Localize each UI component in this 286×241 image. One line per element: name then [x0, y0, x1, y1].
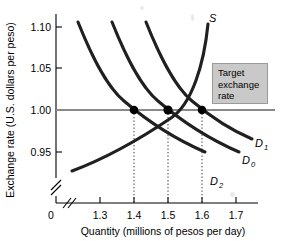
- y-tick-label-1-00: 1.00: [31, 104, 52, 116]
- y-tick-label-0-95: 0.95: [31, 146, 52, 158]
- scan-speck-2: [191, 14, 194, 21]
- target-exchange-rate-callout: Target exchange rate: [212, 63, 268, 104]
- curve-label-d2-sub: 2: [218, 181, 224, 190]
- y-axis-title: Exchange rate (U.S. dollars per peso): [4, 22, 16, 198]
- y-tick-label-1-10: 1.10: [31, 21, 52, 33]
- curve-label-d0: D 0: [242, 154, 256, 169]
- curve-label-d1-sub: 1: [264, 143, 268, 152]
- curve-label-d2: D 2: [210, 175, 224, 190]
- curve-label-s: S: [209, 12, 217, 24]
- x-tick-label-1-4: 1.4: [127, 209, 142, 221]
- equilibrium-dot-1-4: [130, 106, 139, 115]
- curve-label-d0-sub: 0: [251, 160, 256, 169]
- x-axis-title: Quantity (millions of pesos per day): [81, 225, 246, 237]
- callout-line-3: rate: [218, 90, 263, 102]
- exchange-rate-chart: 1.10 1.05 1.00 0.95 0 1.3 1.4 1.5 1.6 1.…: [0, 0, 286, 241]
- x-tick-label-1-6: 1.6: [195, 209, 210, 221]
- x-tick-label-1-5: 1.5: [161, 209, 176, 221]
- x-tick-labels: 0 1.3 1.4 1.5 1.6 1.7: [48, 209, 243, 221]
- x-tick-label-0: 0: [48, 209, 54, 221]
- supply-curve-s: [72, 24, 208, 171]
- scan-speck-3: [166, 136, 170, 140]
- y-axis-break-mark-2: [51, 185, 61, 195]
- callout-line-1: Target: [218, 67, 263, 79]
- callout-line-2: exchange: [218, 79, 263, 91]
- scan-speck-1: [140, 6, 144, 10]
- curve-label-d0-text: D: [242, 154, 250, 166]
- y-axis-break-mark-1: [51, 180, 61, 190]
- chart-svg: 1.10 1.05 1.00 0.95 0 1.3 1.4 1.5 1.6 1.…: [0, 0, 286, 241]
- equilibrium-dot-1-6: [198, 106, 207, 115]
- curve-label-s-text: S: [209, 12, 217, 24]
- x-tick-label-1-3: 1.3: [93, 209, 108, 221]
- y-tick-label-1-05: 1.05: [31, 62, 52, 74]
- curve-label-d1-text: D: [255, 137, 263, 149]
- scan-speck-4: [230, 192, 235, 197]
- curve-label-d2-text: D: [210, 175, 218, 187]
- curve-label-d1: D 1: [255, 137, 268, 152]
- x-tick-label-1-7: 1.7: [229, 209, 244, 221]
- y-tick-labels: 1.10 1.05 1.00 0.95: [31, 21, 52, 158]
- demand-curve-d2: [78, 22, 205, 152]
- equilibrium-dot-1-5: [163, 105, 172, 114]
- droplines: [134, 110, 202, 203]
